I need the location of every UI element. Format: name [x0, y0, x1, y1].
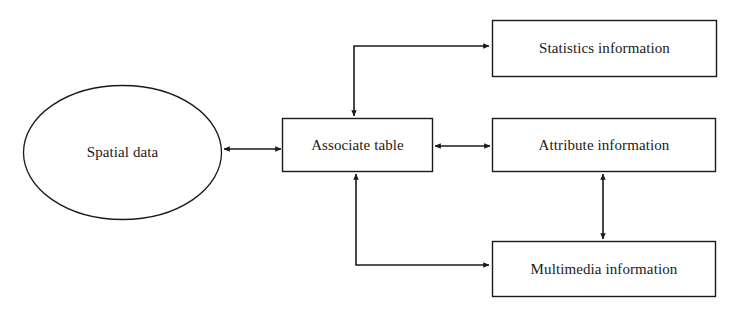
node-statistics-information[interactable] — [492, 20, 717, 77]
node-attribute-information[interactable] — [492, 118, 716, 172]
diagram-canvas: Spatial data Associate table Statistics … — [0, 0, 739, 316]
edge-associate-table-multimedia-information — [356, 174, 489, 265]
node-associate-table[interactable] — [282, 118, 433, 172]
node-multimedia-information[interactable] — [492, 241, 716, 297]
edge-associate-table-statistics-information — [354, 46, 489, 116]
node-spatial-data[interactable] — [23, 85, 222, 220]
